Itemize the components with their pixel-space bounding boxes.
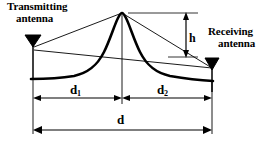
d2-dimension-label: d2 bbox=[157, 82, 168, 98]
d2-dimension-label-subscript: 2 bbox=[164, 89, 168, 98]
receiving-antenna-label: Receiving antenna bbox=[208, 26, 255, 49]
d1-dimension-label-subscript: 1 bbox=[77, 89, 81, 98]
d2-arrow-left bbox=[122, 95, 130, 101]
d-arrow-left bbox=[33, 126, 42, 134]
receiving-antenna-label-line1: Receiving bbox=[208, 25, 253, 37]
receiving-antenna-label-line2: antenna bbox=[218, 38, 255, 50]
receiving-antenna-symbol bbox=[205, 58, 219, 70]
d1-dimension-label: d1 bbox=[70, 82, 81, 98]
transmitting-antenna-label-line1: Transmitting bbox=[7, 0, 67, 12]
d2-arrow-right bbox=[204, 95, 212, 101]
diagram-canvas: Transmitting antenna Receiving antenna h… bbox=[0, 0, 274, 146]
transmitting-antenna-label: Transmitting antenna bbox=[7, 1, 67, 24]
transmitting-antenna-label-line2: antenna bbox=[16, 13, 67, 25]
d-dimension-label: d bbox=[117, 112, 124, 128]
d1-arrow-right bbox=[114, 95, 122, 101]
height-dimension-label: h bbox=[189, 31, 196, 46]
d1-arrow-left bbox=[33, 95, 41, 101]
d-arrow-right bbox=[203, 126, 212, 134]
